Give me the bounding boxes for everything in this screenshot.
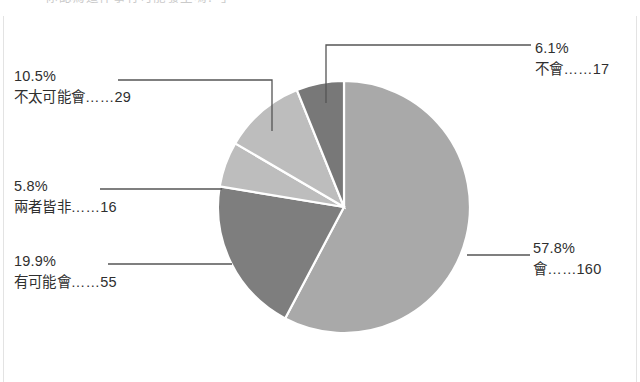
callout-liangzhejiefei-percent: 5.8% xyxy=(14,176,117,196)
callout-hui: 57.8% 會……160 xyxy=(533,238,601,280)
callout-buhui-percent: 6.1% xyxy=(535,38,609,58)
pie-chart-figure: 一「你認為這件事有可能發生嗎？」 6.1% 不會……17 57.8% 會……16… xyxy=(0,0,640,382)
callout-youkenenghui: 19.9% 有可能會……55 xyxy=(14,251,117,293)
callout-buhui-label: 不會……17 xyxy=(535,58,609,80)
callout-liangzhejiefei: 5.8% 兩者皆非……16 xyxy=(14,176,117,218)
callout-hui-label: 會……160 xyxy=(533,258,601,280)
callout-butaikenenghui-label: 不太可能會……29 xyxy=(14,86,131,108)
callout-butaikenenghui: 10.5% 不太可能會……29 xyxy=(14,66,131,108)
callout-youkenenghui-percent: 19.9% xyxy=(14,251,117,271)
callout-liangzhejiefei-label: 兩者皆非……16 xyxy=(14,196,117,218)
callout-youkenenghui-label: 有可能會……55 xyxy=(14,271,117,293)
callout-buhui: 6.1% 不會……17 xyxy=(535,38,609,80)
callout-butaikenenghui-percent: 10.5% xyxy=(14,66,131,86)
callout-hui-percent: 57.8% xyxy=(533,238,601,258)
